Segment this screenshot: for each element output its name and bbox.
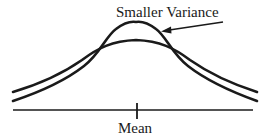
mean-label: Mean <box>118 120 153 136</box>
variance-diagram: Smaller Variance Mean <box>0 0 272 140</box>
annotation-arrow <box>161 22 223 34</box>
larger-variance-curve <box>13 40 257 92</box>
smaller-variance-curve <box>13 22 257 101</box>
smaller-variance-label: Smaller Variance <box>116 4 219 20</box>
